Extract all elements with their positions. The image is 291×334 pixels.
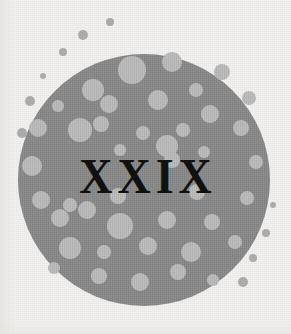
disc-dot <box>51 209 69 227</box>
disc-dot <box>170 264 186 280</box>
disc-dot <box>107 213 133 239</box>
disc-dot <box>118 56 146 84</box>
disc-dot <box>136 126 150 140</box>
disc-dot <box>100 95 118 113</box>
disc-dot <box>214 64 230 80</box>
scatter-dot <box>59 48 67 56</box>
illustration-page: XXIX <box>0 0 291 334</box>
disc-dot <box>189 83 203 97</box>
disc-dot <box>68 118 92 142</box>
disc-dot <box>59 237 81 259</box>
disc-dot <box>228 235 242 249</box>
disc-dot <box>91 268 107 284</box>
chapter-numeral: XXIX <box>74 152 217 202</box>
scatter-dot <box>238 277 248 287</box>
disc-dot <box>93 116 109 132</box>
disc-dot <box>131 273 149 291</box>
scatter-dot <box>106 18 114 26</box>
disc-dot <box>148 90 168 110</box>
disc-dot <box>207 274 219 286</box>
scatter-dot <box>78 30 88 40</box>
chapter-numeral-wrapper: XXIX <box>0 154 291 200</box>
scatter-dot <box>249 254 257 262</box>
disc-dot <box>139 237 157 255</box>
disc-dot <box>82 79 104 101</box>
scatter-dot <box>270 202 276 208</box>
scatter-dot <box>17 128 27 138</box>
disc-dot <box>158 211 176 229</box>
disc-dot <box>97 245 111 259</box>
scatter-dot <box>25 96 35 106</box>
disc-dot <box>233 120 249 136</box>
disc-dot <box>162 52 182 72</box>
disc-dot <box>29 119 47 137</box>
scatter-dot <box>262 229 270 237</box>
disc-dot <box>176 123 190 137</box>
disc-dot <box>204 214 220 230</box>
scatter-dot <box>40 73 46 79</box>
disc-dot <box>48 262 60 274</box>
disc-dot <box>181 242 201 262</box>
disc-dot <box>52 100 64 112</box>
disc-dot <box>242 91 256 105</box>
disc-dot <box>201 105 219 123</box>
